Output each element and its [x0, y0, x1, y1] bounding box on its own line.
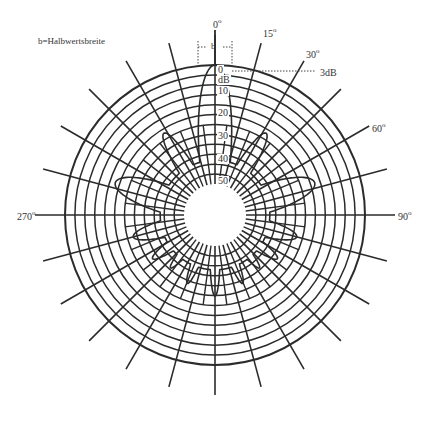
angle-label-270: 270o	[17, 210, 36, 222]
db-tick-50: 50	[217, 176, 229, 186]
polar-diagram	[0, 0, 430, 423]
db-unit: dB	[217, 75, 231, 85]
angle-label-60: 60o	[372, 122, 386, 134]
angle-label-90: 90o	[398, 210, 412, 222]
db-tick-20: 20	[217, 108, 229, 118]
threshold-3db-label: 3dB	[320, 68, 337, 78]
angle-label-30: 30o	[306, 48, 320, 60]
legend-text: b=Halbwertsbreite	[38, 37, 105, 46]
beamwidth-label: b	[211, 42, 216, 51]
db-tick-10: 10	[217, 86, 229, 96]
db-tick-30: 30	[217, 131, 229, 141]
angle-label-0: 0o	[213, 18, 222, 30]
polar-grid-spokes	[35, 35, 395, 395]
angle-label-15: 15o	[263, 27, 277, 39]
db-tick-40: 40	[217, 154, 229, 164]
